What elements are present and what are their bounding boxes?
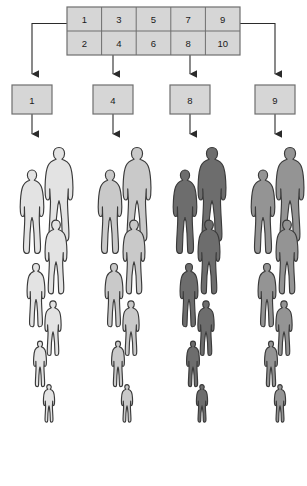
selected-box-8[interactable]: 8: [170, 85, 210, 114]
selected-box-9-label: 9: [272, 95, 277, 106]
arrow-to-box-1: [32, 24, 67, 75]
frame-cell-r1c3[interactable]: 5: [151, 14, 156, 25]
diagram-canvas: 1 3 5 7 9 2 4 6 8 10 1 4 8: [0, 0, 307, 486]
sampling-diagram: 1 3 5 7 9 2 4 6 8 10 1 4 8: [0, 0, 307, 486]
selected-box-4-label: 4: [110, 95, 115, 106]
person-figure: [265, 341, 278, 387]
person-figure: [198, 301, 214, 356]
frame-cell-r1c4[interactable]: 7: [185, 14, 190, 25]
person-figure: [20, 170, 44, 253]
frame-cell-r1c5[interactable]: 9: [220, 14, 225, 25]
population-group-8: [173, 147, 226, 422]
frame-cell-r2c5[interactable]: 10: [217, 38, 228, 49]
frame-cell-r2c1[interactable]: 2: [82, 38, 87, 49]
sampling-frame-table: 1 3 5 7 9 2 4 6 8 10: [67, 7, 240, 55]
person-figure: [251, 170, 275, 253]
selected-unit-boxes: 1 4 8 9: [12, 85, 295, 114]
person-figure: [121, 385, 132, 423]
person-figure: [173, 170, 197, 253]
person-figure: [45, 301, 61, 356]
frame-cell-r1c1[interactable]: 1: [82, 14, 87, 25]
person-figure: [276, 301, 292, 356]
frame-cell-r2c2[interactable]: 4: [116, 38, 121, 49]
person-figure: [258, 264, 276, 327]
person-figure: [34, 341, 47, 387]
population-group-4: [98, 147, 151, 422]
person-figure: [98, 170, 122, 253]
selected-box-1[interactable]: 1: [12, 85, 52, 114]
population-groups: [20, 147, 304, 422]
selected-box-1-label: 1: [29, 95, 34, 106]
person-figure: [274, 385, 285, 423]
person-figure: [196, 385, 207, 423]
person-figure: [105, 264, 123, 327]
person-figure: [123, 301, 139, 356]
selected-box-9[interactable]: 9: [255, 85, 295, 114]
person-figure: [43, 385, 54, 423]
frame-cell-r2c4[interactable]: 8: [185, 38, 190, 49]
selected-box-4[interactable]: 4: [93, 85, 133, 114]
arrow-to-box-9: [240, 24, 275, 75]
person-figure: [187, 341, 200, 387]
person-figure: [180, 264, 198, 327]
frame-cell-r1c2[interactable]: 3: [116, 14, 121, 25]
person-figure: [112, 341, 125, 387]
person-figure: [27, 264, 45, 327]
selected-box-8-label: 8: [187, 95, 192, 106]
population-group-1: [20, 147, 73, 422]
frame-cell-r2c3[interactable]: 6: [151, 38, 156, 49]
population-group-9: [251, 147, 304, 422]
